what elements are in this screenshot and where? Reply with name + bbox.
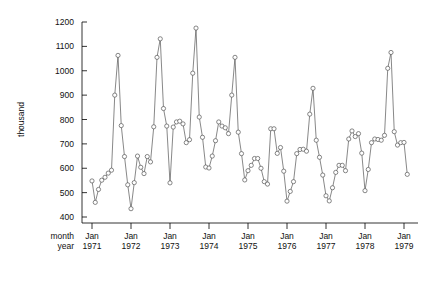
data-point bbox=[207, 166, 211, 170]
data-point bbox=[158, 37, 162, 41]
data-point bbox=[343, 169, 347, 173]
data-point bbox=[230, 93, 234, 97]
y-tick-label: 1100 bbox=[56, 41, 75, 51]
data-point bbox=[213, 139, 217, 143]
y-tick-label: 400 bbox=[60, 212, 74, 222]
data-point bbox=[181, 122, 185, 126]
data-point bbox=[405, 172, 409, 176]
data-point bbox=[191, 71, 195, 75]
data-point bbox=[152, 125, 156, 129]
data-point bbox=[142, 172, 146, 176]
data-point bbox=[171, 125, 175, 129]
x-tick-month-label: Jan bbox=[202, 231, 216, 241]
data-point bbox=[356, 132, 360, 136]
data-point bbox=[334, 170, 338, 174]
chart-container: 400500600700800900100011001200 Jan1971Ja… bbox=[0, 0, 441, 282]
data-point bbox=[165, 124, 169, 128]
data-point bbox=[223, 126, 227, 130]
data-point bbox=[285, 199, 289, 203]
data-point bbox=[200, 135, 204, 139]
data-point bbox=[366, 167, 370, 171]
data-point bbox=[96, 187, 100, 191]
x-tick-year-label: 1973 bbox=[161, 241, 180, 251]
data-point bbox=[93, 200, 97, 204]
data-point bbox=[282, 169, 286, 173]
y-axis-title: thousand bbox=[16, 102, 26, 137]
y-tick-label: 1200 bbox=[55, 17, 74, 27]
line-chart: 400500600700800900100011001200 Jan1971Ja… bbox=[0, 0, 441, 282]
x-tick-year-label: 1977 bbox=[317, 241, 336, 251]
data-point bbox=[122, 154, 126, 158]
data-point bbox=[324, 194, 328, 198]
data-point bbox=[347, 137, 351, 141]
y-tick-label: 800 bbox=[60, 115, 74, 125]
data-series bbox=[90, 26, 409, 211]
data-point bbox=[379, 138, 383, 142]
data-point bbox=[392, 130, 396, 134]
data-point bbox=[291, 180, 295, 184]
data-point bbox=[304, 149, 308, 153]
data-point bbox=[295, 152, 299, 156]
data-point bbox=[197, 115, 201, 119]
data-point bbox=[233, 55, 237, 59]
y-tick-label: 1000 bbox=[55, 66, 74, 76]
data-point bbox=[314, 138, 318, 142]
data-point bbox=[340, 163, 344, 167]
row-label-year: year bbox=[57, 241, 74, 251]
data-point bbox=[363, 189, 367, 193]
data-point bbox=[145, 154, 149, 158]
data-point bbox=[226, 132, 230, 136]
data-point bbox=[275, 151, 279, 155]
data-point bbox=[148, 160, 152, 164]
y-tick-label: 500 bbox=[60, 188, 74, 198]
data-point bbox=[311, 86, 315, 90]
data-point bbox=[386, 66, 390, 70]
data-point bbox=[256, 156, 260, 160]
data-point bbox=[161, 106, 165, 110]
data-point bbox=[259, 166, 263, 170]
data-point bbox=[187, 138, 191, 142]
data-point bbox=[194, 26, 198, 30]
x-tick-month-label: Jan bbox=[358, 231, 372, 241]
data-point bbox=[139, 165, 143, 169]
data-point bbox=[113, 93, 117, 97]
data-point bbox=[217, 120, 221, 124]
y-tick-label: 600 bbox=[60, 163, 74, 173]
x-tick-month-label: Jan bbox=[241, 231, 255, 241]
x-tick-month-label: Jan bbox=[280, 231, 294, 241]
data-point bbox=[382, 133, 386, 137]
data-point bbox=[246, 169, 250, 173]
x-tick-month-label: Jan bbox=[124, 231, 138, 241]
data-point bbox=[330, 186, 334, 190]
data-point bbox=[321, 173, 325, 177]
data-point bbox=[210, 154, 214, 158]
y-tick-label: 700 bbox=[60, 139, 74, 149]
row-label-month: month bbox=[50, 231, 74, 241]
data-point bbox=[317, 155, 321, 159]
y-tick-label: 900 bbox=[60, 90, 74, 100]
y-axis: 400500600700800900100011001200 bbox=[55, 17, 87, 223]
data-point bbox=[126, 183, 130, 187]
data-point bbox=[308, 112, 312, 116]
x-tick-year-label: 1974 bbox=[200, 241, 219, 251]
data-point bbox=[389, 50, 393, 54]
x-tick-year-label: 1971 bbox=[83, 241, 102, 251]
data-point bbox=[278, 145, 282, 149]
data-point bbox=[155, 55, 159, 59]
data-point bbox=[119, 123, 123, 127]
data-point bbox=[249, 163, 253, 167]
data-point bbox=[239, 152, 243, 156]
data-point bbox=[360, 151, 364, 155]
x-tick-year-label: 1976 bbox=[278, 241, 297, 251]
x-tick-month-label: Jan bbox=[319, 231, 333, 241]
x-tick-month-label: Jan bbox=[163, 231, 177, 241]
data-point bbox=[272, 127, 276, 131]
data-point bbox=[129, 207, 133, 211]
data-point bbox=[327, 199, 331, 203]
data-point bbox=[243, 178, 247, 182]
x-tick-year-label: 1979 bbox=[395, 241, 414, 251]
data-point bbox=[350, 129, 354, 133]
data-point bbox=[236, 130, 240, 134]
x-tick-year-label: 1975 bbox=[239, 241, 258, 251]
data-point bbox=[265, 182, 269, 186]
